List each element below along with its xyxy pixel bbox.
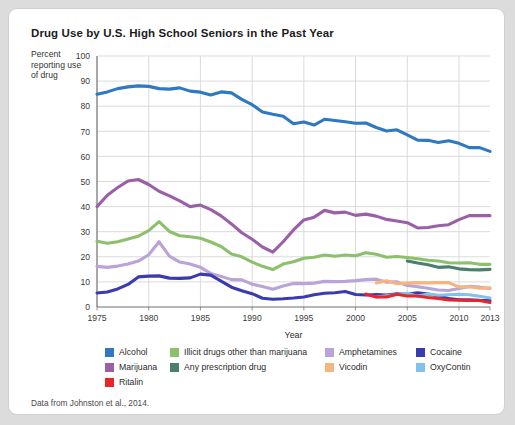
- legend-label-marijuana: Marijuana: [119, 362, 157, 372]
- legend-item-ritalin[interactable]: Ritalin: [105, 377, 170, 387]
- legend-row: Alcohol Illicit drugs other than marijua…: [105, 347, 497, 362]
- svg-text:10: 10: [80, 277, 90, 287]
- legend-label-any-prescription-drug: Any prescription drug: [184, 362, 266, 372]
- svg-text:2013: 2013: [480, 313, 499, 323]
- legend-item-cocaine[interactable]: Cocaine: [416, 347, 496, 357]
- legend-swatch-oxycontin: [416, 363, 425, 372]
- svg-text:50: 50: [80, 177, 90, 187]
- legend-item-illicit-other[interactable]: Illicit drugs other than marijuana: [170, 347, 325, 357]
- svg-text:0: 0: [85, 302, 90, 312]
- svg-text:1990: 1990: [243, 313, 262, 323]
- legend-swatch-any-prescription-drug: [170, 363, 179, 372]
- legend-label-oxycontin: OxyContin: [430, 362, 471, 372]
- figure-card: Drug Use by U.S. High School Seniors in …: [8, 8, 505, 415]
- legend-swatch-alcohol: [105, 348, 114, 357]
- svg-text:1985: 1985: [191, 313, 210, 323]
- legend-row: Marijuana Any prescription drug Vicodin …: [105, 362, 497, 377]
- svg-text:60: 60: [80, 152, 90, 162]
- svg-text:30: 30: [80, 227, 90, 237]
- svg-text:2010: 2010: [449, 313, 468, 323]
- legend-item-alcohol[interactable]: Alcohol: [105, 347, 170, 357]
- legend-swatch-marijuana: [105, 363, 114, 372]
- legend-label-alcohol: Alcohol: [119, 347, 148, 357]
- legend-label-illicit-other: Illicit drugs other than marijuana: [184, 347, 307, 357]
- legend-row: Ritalin: [105, 377, 497, 392]
- legend-item-any-prescription-drug[interactable]: Any prescription drug: [170, 362, 325, 372]
- chart-legend: Alcohol Illicit drugs other than marijua…: [105, 347, 497, 392]
- legend-label-vicodin: Vicodin: [339, 362, 367, 372]
- source-caption: Data from Johnston et al., 2014.: [31, 398, 149, 408]
- svg-text:2000: 2000: [346, 313, 365, 323]
- legend-swatch-cocaine: [416, 348, 425, 357]
- legend-swatch-illicit-other: [170, 348, 179, 357]
- svg-text:90: 90: [80, 76, 90, 86]
- svg-text:Year: Year: [285, 330, 303, 340]
- svg-text:20: 20: [80, 252, 90, 262]
- svg-text:40: 40: [80, 202, 90, 212]
- legend-label-cocaine: Cocaine: [430, 347, 462, 357]
- svg-text:80: 80: [80, 101, 90, 111]
- legend-label-amphetamines: Amphetamines: [339, 347, 397, 357]
- svg-text:1980: 1980: [139, 313, 158, 323]
- svg-text:1995: 1995: [294, 313, 313, 323]
- legend-item-oxycontin[interactable]: OxyContin: [416, 362, 496, 372]
- legend-item-amphetamines[interactable]: Amphetamines: [325, 347, 416, 357]
- legend-swatch-vicodin: [325, 363, 334, 372]
- legend-swatch-ritalin: [105, 378, 114, 387]
- svg-text:2005: 2005: [398, 313, 417, 323]
- legend-item-vicodin[interactable]: Vicodin: [325, 362, 416, 372]
- legend-label-ritalin: Ritalin: [119, 377, 143, 387]
- legend-swatch-amphetamines: [325, 348, 334, 357]
- svg-text:100: 100: [76, 51, 91, 61]
- legend-item-marijuana[interactable]: Marijuana: [105, 362, 170, 372]
- svg-text:70: 70: [80, 127, 90, 137]
- svg-text:1975: 1975: [87, 313, 106, 323]
